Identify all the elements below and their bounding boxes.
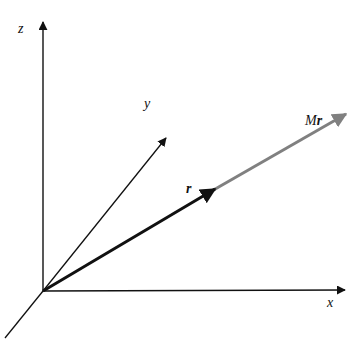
z-axis-label: z <box>18 22 23 36</box>
vector-r-label: r <box>186 182 191 196</box>
x-axis-label: x <box>327 296 333 310</box>
y-axis-label: y <box>144 97 150 111</box>
matrix-M-label: M <box>305 113 317 128</box>
vector-Mr-label: Mr <box>305 114 322 128</box>
vector-diagram <box>0 0 362 343</box>
vector-r <box>43 189 215 291</box>
y-axis-negative <box>5 291 43 338</box>
y-axis <box>43 138 166 291</box>
vector-r-in-Mr-label: r <box>317 113 322 128</box>
vector-Mr <box>210 114 346 192</box>
x-axis <box>43 290 345 291</box>
